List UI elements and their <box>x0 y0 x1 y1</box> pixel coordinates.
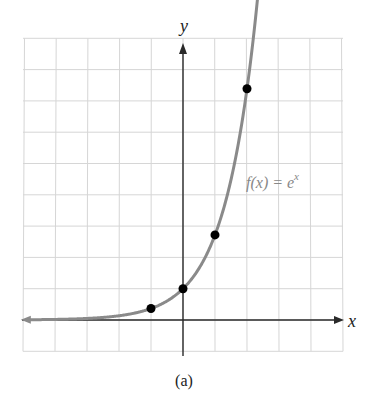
data-point <box>147 304 156 313</box>
function-label-exponent: x <box>293 170 299 182</box>
data-point <box>243 84 252 93</box>
function-label-base: f(x) = e <box>246 174 294 192</box>
data-point <box>179 284 188 293</box>
function-label: f(x) = ex <box>246 170 299 192</box>
data-points <box>147 84 252 313</box>
y-axis-arrow-icon <box>179 43 187 54</box>
data-point <box>211 230 220 239</box>
exp-curve <box>28 0 264 320</box>
y-axis <box>179 43 187 356</box>
chart-figure: y x f(x) = ex (a) <box>0 0 369 400</box>
curve-left-arrow-icon <box>21 316 31 324</box>
y-axis-label: y <box>178 16 188 36</box>
x-axis-label: x <box>347 311 356 331</box>
figure-caption: (a) <box>175 372 193 390</box>
